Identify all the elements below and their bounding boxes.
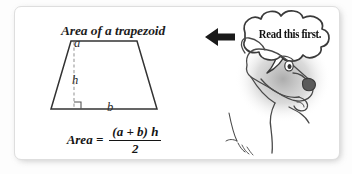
screenshot-root: Area of a trapezoid a b h Area = (a + b)… — [0, 0, 352, 174]
fraction-numerator: (a + b) h — [109, 125, 161, 140]
formula-left-side: Area = — [67, 132, 104, 148]
pointer-arrow — [205, 28, 235, 46]
formula-fraction: (a + b) h 2 — [109, 125, 161, 156]
dog-pupil — [288, 64, 292, 69]
dog-fur-stroke-1 — [229, 113, 237, 141]
dog-fur-stroke-3 — [238, 143, 245, 152]
label-side-a: a — [74, 36, 80, 51]
right-angle-marker — [74, 102, 81, 109]
dog-nose — [302, 78, 315, 90]
content-card: Area of a trapezoid a b h Area = (a + b)… — [14, 6, 340, 160]
mascot-panel: Read this first. — [201, 7, 339, 159]
trapezoid-outline — [51, 41, 157, 109]
arrow-left-icon — [205, 28, 235, 46]
label-height-h: h — [72, 73, 78, 88]
speech-bubble-text: Read this first. — [250, 28, 330, 40]
figure-title: Area of a trapezoid — [33, 23, 193, 39]
math-figure-panel: Area of a trapezoid a b h Area = (a + b)… — [15, 7, 205, 159]
dog-fur-stroke-4 — [242, 145, 249, 154]
area-formula: Area = (a + b) h 2 — [39, 125, 189, 156]
dog-fur-stroke-2 — [226, 140, 237, 142]
label-side-b: b — [107, 100, 113, 115]
dog-fur-stroke-5 — [247, 147, 253, 155]
fraction-denominator: 2 — [132, 141, 139, 156]
